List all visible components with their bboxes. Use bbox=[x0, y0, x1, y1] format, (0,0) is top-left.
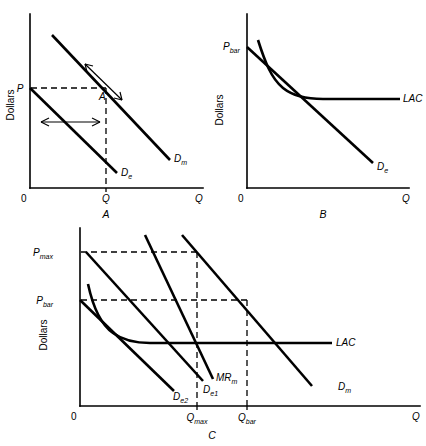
curve-label-de2-panel-c: De2 bbox=[173, 391, 188, 404]
curve-label-de1-panel-c: De1 bbox=[203, 384, 218, 397]
panel-a-xaxis-name: Q bbox=[195, 193, 203, 204]
figure-root: P A Dm De 0 Q Q Dollars A Pbar bbox=[0, 0, 426, 446]
curve-de2-panel-c bbox=[80, 300, 174, 391]
curve-label-dm-panel-a: Dm bbox=[174, 153, 187, 166]
panel-c: Pmax Pbar LAC Dm MRm De1 De2 0 Qmax Qbar… bbox=[0, 223, 426, 446]
panel-c-ylabel-pbar: Pbar bbox=[36, 295, 53, 308]
panel-a: P A Dm De 0 Q Q Dollars A bbox=[0, 0, 213, 223]
panel-c-letter: C bbox=[208, 429, 216, 441]
curve-label-lac-panel-b: LAC bbox=[403, 93, 423, 104]
curve-label-de-panel-a: De bbox=[121, 167, 132, 180]
curve-mrm-panel-c bbox=[145, 235, 213, 379]
curve-label-mrm-panel-c: MRm bbox=[216, 372, 238, 385]
curve-label-lac-panel-c: LAC bbox=[336, 337, 356, 348]
panel-c-xaxis-name: Q bbox=[412, 411, 420, 422]
panel-b-letter: B bbox=[319, 208, 326, 220]
panel-a-point-a-label: A bbox=[98, 91, 106, 102]
panel-c-ylabel-pmax: Pmax bbox=[33, 247, 53, 260]
panel-a-letter: A bbox=[101, 208, 109, 220]
panel-a-yaxis-name: Dollars bbox=[5, 89, 16, 120]
panel-c-xtick-label-qmax: Qmax bbox=[186, 412, 208, 425]
curve-label-de-panel-b: De bbox=[377, 161, 388, 174]
panel-c-xtick-label-qbar: Qbar bbox=[238, 412, 257, 425]
panel-a-ylabel-p-text: P bbox=[17, 83, 24, 94]
curve-lac-panel-b bbox=[258, 40, 400, 99]
panel-b: Pbar LAC De 0 Q Dollars B bbox=[213, 0, 426, 223]
shift-arrow-horizontal bbox=[41, 118, 100, 126]
panel-c-origin-label: 0 bbox=[71, 411, 77, 422]
panel-b-ylabel-pbar: Pbar bbox=[223, 41, 240, 54]
panel-b-yaxis-name: Dollars bbox=[214, 94, 225, 125]
curve-dm-panel-a bbox=[52, 35, 170, 160]
panel-a-xtick-label-q: Q bbox=[102, 193, 110, 204]
panel-a-origin-label: 0 bbox=[21, 193, 27, 204]
panel-c-yaxis-name: Dollars bbox=[38, 319, 49, 350]
curve-de-panel-b bbox=[247, 47, 373, 163]
curve-label-dm-panel-c: Dm bbox=[338, 381, 351, 394]
panel-b-origin-label: 0 bbox=[238, 193, 244, 204]
panel-b-xaxis-name: Q bbox=[402, 193, 410, 204]
